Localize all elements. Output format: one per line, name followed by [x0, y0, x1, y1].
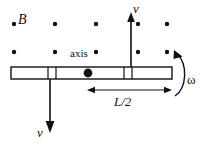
physics-diagram-rotating-rod: B axis v v L/2 ω — [0, 0, 211, 145]
field-dot-icon — [165, 50, 169, 54]
magnetic-field-label: B — [18, 13, 27, 27]
field-dot-icon — [53, 50, 57, 54]
half-length-label: L/2 — [114, 95, 131, 108]
velocity-top-label: v — [133, 2, 139, 15]
field-dot-icon — [94, 22, 98, 26]
angular-velocity-arc-icon — [174, 50, 185, 96]
field-dot-icon — [136, 50, 140, 54]
field-dot-icon — [165, 22, 169, 26]
field-dot-icon — [53, 22, 57, 26]
field-dot-row-bottom — [12, 50, 169, 54]
diagram-canvas — [0, 0, 211, 145]
velocity-bottom-label: v — [37, 126, 43, 139]
velocity-arrow-down-icon — [46, 73, 55, 133]
field-dot-row-top — [12, 22, 169, 26]
field-dot-icon — [12, 50, 16, 54]
pivot-axis-dot-icon — [84, 69, 93, 78]
dimension-arrow-half-length-icon — [87, 87, 172, 93]
field-dot-icon — [94, 50, 98, 54]
field-dot-icon — [136, 22, 140, 26]
axis-label: axis — [70, 48, 88, 59]
angular-velocity-label: ω — [187, 73, 196, 86]
field-dot-icon — [12, 22, 16, 26]
velocity-arrow-up-icon — [127, 12, 135, 73]
